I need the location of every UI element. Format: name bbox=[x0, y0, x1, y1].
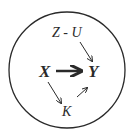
node-y: Y bbox=[88, 62, 100, 81]
node-x: X bbox=[38, 62, 51, 81]
causal-diagram: Z - U X Y K bbox=[0, 0, 131, 138]
node-k: K bbox=[61, 104, 72, 119]
edge-k-to-y bbox=[77, 88, 87, 97]
node-z-u: Z - U bbox=[52, 25, 82, 40]
edge-x-to-k bbox=[48, 82, 61, 103]
edge-zu-to-y bbox=[80, 42, 92, 61]
